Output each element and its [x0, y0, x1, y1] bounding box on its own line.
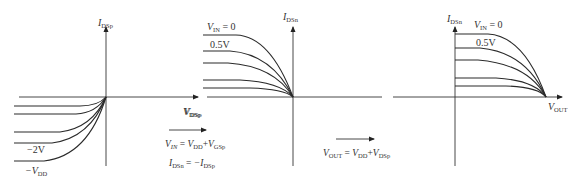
label-sub: IN [213, 26, 220, 33]
y-axis-label: IDSn [447, 14, 462, 26]
eq-lhs-sub: OUT [329, 152, 342, 159]
curve-label-vin-0: VIN = 0 [474, 20, 503, 32]
label-sub: DSp [189, 111, 201, 118]
curve [14, 97, 106, 143]
curve [203, 88, 293, 97]
y-axis-label: IDSp [98, 18, 113, 30]
eq-equals: = [177, 139, 187, 149]
curve [455, 34, 546, 97]
eq-equals: = [342, 148, 352, 158]
equation-vin: VIN = VDD+VGSp [165, 140, 225, 151]
eq-rhs2-sub: GSp [214, 143, 226, 150]
curve-label-minus-2v: −2V [27, 145, 45, 155]
label-suffix: = 0 [487, 19, 503, 30]
curve-label-minus-vdd: −VDD [25, 166, 47, 178]
curve [14, 97, 106, 106]
y-axis-label: IDSn [283, 12, 298, 24]
label-sub: IN [480, 24, 487, 31]
eq-rhs1-sub: DD [193, 143, 202, 150]
equation-vout: VOUT = VDD+VDSp [323, 149, 390, 160]
eq-rhs: −I [194, 158, 204, 168]
label-sub: OUT [554, 106, 567, 113]
label-main: −V [25, 165, 38, 176]
equation-idsn: IDSn = −IDSp [169, 159, 215, 170]
label-sub: DSn [450, 18, 462, 25]
eq-lhs-sub: DSn [172, 162, 184, 169]
eq-equals: = [184, 158, 194, 168]
curve-label-0-5v: 0.5V [476, 38, 496, 48]
label-sub: DSn [286, 16, 298, 23]
curve [455, 78, 546, 97]
curve [203, 51, 293, 97]
curve-label-0-5v: 0.5V [210, 40, 230, 50]
label-sub: DSp [101, 22, 113, 29]
curve-label-vin-0: VIN = 0 [207, 22, 236, 34]
x-axis-label: VDSp [183, 107, 201, 119]
x-axis-label: VOUT [548, 102, 567, 114]
label-sub: DD [38, 170, 47, 177]
eq-rhs-sub: DSp [203, 162, 215, 169]
eq-rhs2-sub: DSp [379, 152, 391, 159]
curve [455, 86, 546, 97]
label-suffix: = 0 [220, 21, 236, 32]
